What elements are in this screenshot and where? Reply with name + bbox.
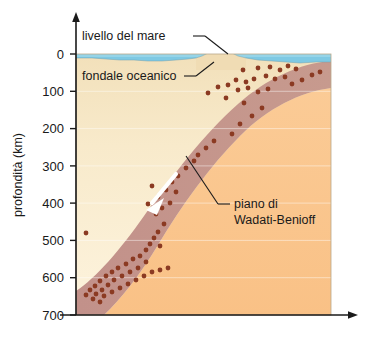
y-tick-label: 100 <box>42 84 64 99</box>
y-tick-label: 0 <box>57 47 64 62</box>
ocean-floor-label: fondale oceanico <box>82 69 177 83</box>
y-tick-label: 200 <box>42 121 64 136</box>
plot-area <box>76 47 331 315</box>
subduction-zone-diagram: 0 100 200 300 400 500 600 700 profondità… <box>0 0 365 345</box>
y-tick-label: 500 <box>42 233 64 248</box>
y-tick-label: 300 <box>42 159 64 174</box>
benioff-label-line1: piano di <box>234 197 278 211</box>
y-axis-title: profondità (km) <box>11 133 25 217</box>
benioff-label-line2: Wadati-Benioff <box>234 213 316 227</box>
y-tick-label: 400 <box>42 196 64 211</box>
y-tick-label: 600 <box>42 270 64 285</box>
sea-level-label: livello del mare <box>82 29 165 43</box>
